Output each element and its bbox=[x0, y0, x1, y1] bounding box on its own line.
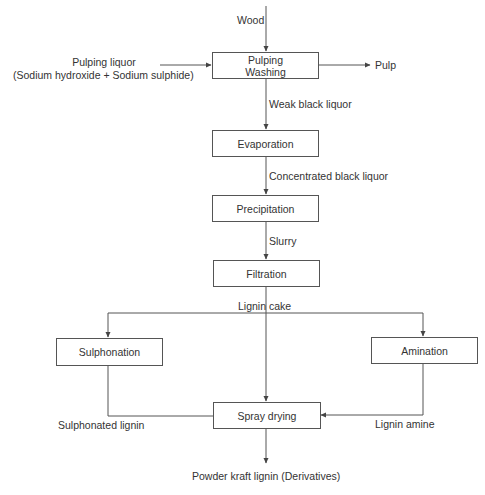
lignin-amine-arrow bbox=[321, 364, 423, 415]
wood-label: Wood bbox=[237, 14, 264, 26]
sulphonated-lignin-line bbox=[108, 366, 213, 416]
final-product-label: Powder kraft lignin (Derivatives) bbox=[192, 470, 340, 482]
pulping-liquor-composition-label: (Sodium hydroxide + Sodium sulphide) bbox=[13, 69, 194, 81]
pulping-washing-box: Pulping Washing bbox=[212, 52, 319, 79]
lignin-cake-label: Lignin cake bbox=[238, 300, 291, 312]
sulphonation-box: Sulphonation bbox=[56, 338, 163, 366]
concentrated-black-liquor-label: Concentrated black liquor bbox=[269, 170, 388, 182]
spray-drying-box: Spray drying bbox=[213, 402, 321, 429]
precipitation-box: Precipitation bbox=[212, 195, 319, 222]
filtration-box: Filtration bbox=[213, 260, 320, 287]
weak-black-liquor-label: Weak black liquor bbox=[269, 98, 352, 110]
evaporation-box: Evaporation bbox=[212, 130, 319, 157]
pulp-label: Pulp bbox=[375, 59, 396, 71]
washing-step-label: Washing bbox=[245, 66, 285, 78]
process-flow-diagram: Wood Pulping liquor (Sodium hydroxide + … bbox=[0, 0, 485, 495]
amination-box: Amination bbox=[371, 337, 478, 364]
slurry-label: Slurry bbox=[269, 235, 296, 247]
pulping-liquor-label: Pulping liquor bbox=[54, 56, 154, 68]
sulphonated-lignin-label: Sulphonated lignin bbox=[58, 419, 144, 431]
lignin-amine-label: Lignin amine bbox=[375, 418, 435, 430]
pulping-step-label: Pulping bbox=[248, 54, 283, 66]
